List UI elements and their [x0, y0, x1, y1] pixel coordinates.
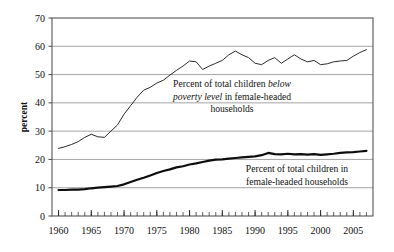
y-tick-label: 70 — [35, 13, 45, 24]
lower-series-annotation: Percent of total children infemale-heade… — [246, 163, 349, 187]
y-tick-label: 10 — [35, 182, 45, 193]
x-tick-label: 1975 — [147, 225, 167, 236]
chart-canvas: 010203040506070 196019651970197519801985… — [0, 0, 394, 252]
x-tick-label: 2005 — [343, 225, 363, 236]
y-tick-label: 50 — [35, 69, 45, 80]
x-tick-label: 1970 — [114, 225, 134, 236]
x-tick-label: 1960 — [49, 225, 69, 236]
x-tick-label: 1995 — [278, 225, 298, 236]
x-tick-label: 1980 — [180, 225, 200, 236]
x-axis-tick-labels: 1960196519701975198019851990199520002005 — [49, 225, 364, 236]
y-tick-label: 20 — [35, 154, 45, 165]
x-tick-label: 1965 — [81, 225, 101, 236]
y-axis-title-text: percent — [19, 101, 29, 132]
y-axis-tick-labels: 010203040506070 — [35, 13, 45, 222]
chart-figure: 010203040506070 196019651970197519801985… — [0, 0, 394, 252]
y-tick-label: 40 — [35, 97, 45, 108]
x-tick-label: 2000 — [311, 225, 331, 236]
y-tick-label: 30 — [35, 126, 45, 137]
y-tick-label: 60 — [35, 41, 45, 52]
x-tick-label: 1985 — [212, 225, 232, 236]
y-axis-title: percent — [19, 101, 29, 132]
y-tick-label: 0 — [40, 211, 45, 222]
x-tick-label: 1990 — [245, 225, 265, 236]
